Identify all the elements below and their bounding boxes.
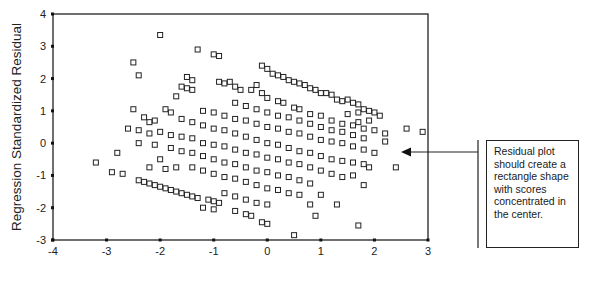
data-point	[265, 202, 270, 207]
data-point	[340, 175, 345, 180]
data-point	[361, 183, 366, 188]
data-point	[292, 79, 297, 84]
data-point	[265, 141, 270, 146]
data-point	[286, 115, 291, 120]
data-point	[308, 202, 313, 207]
data-point	[324, 91, 329, 96]
data-point	[233, 194, 238, 199]
x-tick-label: -4	[48, 245, 58, 257]
data-point	[168, 110, 173, 115]
data-point	[292, 233, 297, 238]
data-point	[265, 110, 270, 115]
data-point	[276, 73, 281, 78]
x-tick-label: -1	[209, 245, 219, 257]
data-point	[243, 118, 248, 123]
data-point	[206, 197, 211, 202]
data-point	[168, 187, 173, 192]
data-point	[308, 112, 313, 117]
data-point	[297, 118, 302, 123]
data-point	[233, 116, 238, 121]
data-point	[142, 179, 147, 184]
data-point	[243, 150, 248, 155]
data-point	[217, 79, 222, 84]
y-tick-label: -2	[36, 202, 46, 214]
data-point	[286, 145, 291, 150]
data-point	[286, 191, 291, 196]
data-point	[174, 189, 179, 194]
data-point	[211, 52, 216, 57]
data-point	[351, 123, 356, 128]
data-point	[168, 133, 173, 138]
data-point	[281, 74, 286, 79]
data-point	[361, 162, 366, 167]
data-point	[383, 139, 388, 144]
data-point	[372, 128, 377, 133]
data-point	[184, 192, 189, 197]
data-point	[356, 102, 361, 107]
data-point	[211, 110, 216, 115]
data-point	[254, 183, 259, 188]
data-point	[222, 113, 227, 118]
data-point	[372, 150, 377, 155]
data-point	[179, 149, 184, 154]
data-point	[297, 149, 302, 154]
data-point	[318, 125, 323, 130]
data-point	[179, 84, 184, 89]
data-point	[168, 145, 173, 150]
data-point	[334, 202, 339, 207]
data-point	[152, 118, 157, 123]
data-point	[126, 126, 131, 131]
data-point	[351, 160, 356, 165]
data-point	[233, 162, 238, 167]
data-point	[308, 150, 313, 155]
x-tick-label: -2	[155, 245, 165, 257]
data-point	[243, 165, 248, 170]
data-point	[351, 133, 356, 138]
data-point	[243, 212, 248, 217]
data-point	[217, 200, 222, 205]
data-point	[254, 137, 259, 142]
data-point	[158, 184, 163, 189]
data-point	[131, 107, 136, 112]
data-point	[329, 171, 334, 176]
x-tick-label: 1	[318, 245, 324, 257]
data-point	[308, 86, 313, 91]
data-point	[254, 121, 259, 126]
x-axis: -4-3-2-10123	[48, 239, 431, 258]
data-point	[308, 165, 313, 170]
data-point	[265, 221, 270, 226]
y-tick-label: 0	[40, 137, 46, 149]
data-point	[265, 66, 270, 71]
data-point	[292, 105, 297, 110]
data-point	[211, 126, 216, 131]
data-point	[329, 157, 334, 162]
data-point	[217, 53, 222, 58]
data-point	[361, 147, 366, 152]
data-point	[233, 176, 238, 181]
data-point	[201, 168, 206, 173]
data-point	[233, 147, 238, 152]
data-point	[222, 128, 227, 133]
data-point	[259, 220, 264, 225]
data-point	[265, 186, 270, 191]
data-point	[393, 165, 398, 170]
data-point	[243, 134, 248, 139]
data-point	[286, 129, 291, 134]
data-point	[356, 223, 361, 228]
data-point	[265, 170, 270, 175]
data-point	[276, 157, 281, 162]
data-point	[201, 123, 206, 128]
arrowhead-icon	[401, 148, 411, 157]
data-point	[254, 107, 259, 112]
data-point	[345, 112, 350, 117]
data-point	[318, 168, 323, 173]
data-point	[356, 120, 361, 125]
data-point	[281, 100, 286, 105]
data-point	[184, 86, 189, 91]
data-point	[211, 142, 216, 147]
data-point	[329, 118, 334, 123]
data-point	[131, 60, 136, 65]
data-point	[276, 173, 281, 178]
y-tick-label: 2	[40, 73, 46, 85]
data-point	[340, 141, 345, 146]
